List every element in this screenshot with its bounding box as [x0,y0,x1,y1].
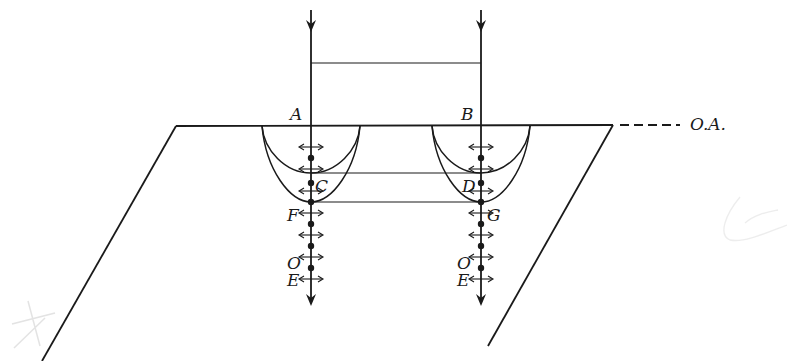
crystal-outline [42,125,680,361]
pencil-smudge-icon [724,197,787,241]
polarization-dot-icon [478,155,484,161]
polarization-dot-icon [478,180,484,186]
polarization-dot-icon [478,243,484,249]
star-smudge-icon [12,301,55,348]
polarization-dot-icon [308,265,314,271]
scan-smudges [12,197,787,348]
polarization-dot-icon [308,221,314,227]
label-D: D [462,178,476,195]
label-F: F [287,207,299,224]
polarization-dot-icon [478,199,484,205]
crystal-right-edge [488,125,613,346]
polarization-dot-icon [308,180,314,186]
label-A: A [290,106,302,123]
label-C: C [315,178,328,195]
polarization-dot-icon [308,243,314,249]
label-E-right: E [457,272,469,289]
polarization-dot-icon [308,155,314,161]
label-B: B [461,106,474,123]
polarization-dot-icon [478,265,484,271]
label-optic-axis: O.A. [690,116,726,133]
crystal-top-surface [176,125,613,126]
label-E-left: E [287,272,299,289]
crystal-left-edge [42,126,176,361]
polarization-dot-icon [308,199,314,205]
polarization-dot-icon [478,221,484,227]
label-G: G [487,207,501,224]
birefringence-diagram: A B C D F G O E O E O.A. [0,0,787,361]
diagram-canvas [0,0,787,361]
